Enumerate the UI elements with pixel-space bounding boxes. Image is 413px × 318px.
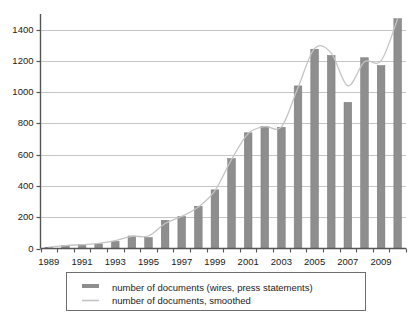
y-tick-label-600: 600 bbox=[18, 149, 34, 160]
x-tick-label-1999: 1999 bbox=[204, 256, 225, 267]
legend-label-smoothed: number of documents, smoothed bbox=[112, 295, 251, 306]
bar-2002 bbox=[261, 127, 269, 249]
bar-2006 bbox=[327, 55, 335, 248]
y-tick-label-1000: 1000 bbox=[12, 86, 33, 97]
y-tick-label-200: 200 bbox=[18, 211, 34, 222]
bar-2003 bbox=[278, 127, 286, 248]
chart-container: 0200400600800100012001400 19891991199319… bbox=[0, 0, 413, 318]
bar-1998 bbox=[195, 206, 203, 248]
x-tick-label-2007: 2007 bbox=[337, 256, 358, 267]
bar-2000 bbox=[228, 159, 236, 249]
x-tick-label-1989: 1989 bbox=[38, 256, 59, 267]
bar-2004 bbox=[294, 86, 302, 249]
y-tick-label-800: 800 bbox=[18, 117, 34, 128]
x-tick-label-1995: 1995 bbox=[138, 256, 159, 267]
x-tick-label-1993: 1993 bbox=[105, 256, 126, 267]
bar-2001 bbox=[244, 133, 252, 249]
documents-per-year-chart: 0200400600800100012001400 19891991199319… bbox=[0, 0, 413, 318]
chart-legend: number of documents (wires, press statem… bbox=[67, 273, 366, 311]
legend-bar-swatch-icon bbox=[82, 284, 99, 288]
x-tick-label-2005: 2005 bbox=[304, 256, 325, 267]
bar-1993 bbox=[111, 241, 119, 248]
y-tick-label-400: 400 bbox=[18, 180, 34, 191]
bar-2007 bbox=[344, 102, 352, 248]
bar-1994 bbox=[128, 236, 136, 249]
bar-2009 bbox=[377, 66, 385, 249]
bar-2008 bbox=[361, 58, 369, 249]
bar-2005 bbox=[311, 49, 319, 248]
bar-2010 bbox=[394, 19, 402, 249]
bar-1997 bbox=[178, 216, 186, 248]
y-tick-label-1200: 1200 bbox=[12, 55, 33, 66]
x-tick-labels: 1989199119931995199719992001200320052007… bbox=[38, 256, 391, 267]
x-tick-label-2009: 2009 bbox=[371, 256, 392, 267]
y-tick-label-1400: 1400 bbox=[12, 24, 33, 35]
x-tick-label-2001: 2001 bbox=[238, 256, 259, 267]
x-tick-label-2003: 2003 bbox=[271, 256, 292, 267]
legend-label-bars: number of documents (wires, press statem… bbox=[112, 282, 313, 293]
x-tick-label-1997: 1997 bbox=[171, 256, 192, 267]
bar-1999 bbox=[211, 190, 219, 249]
bar-1995 bbox=[145, 238, 153, 249]
x-tick-label-1991: 1991 bbox=[71, 256, 92, 267]
y-tick-label-0: 0 bbox=[28, 243, 33, 254]
bar-1992 bbox=[95, 244, 103, 249]
